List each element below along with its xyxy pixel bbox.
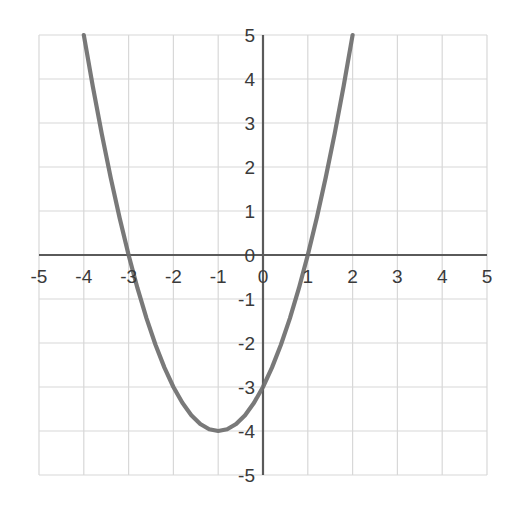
y-tick-label: -3 (238, 378, 255, 397)
y-tick-label: 5 (244, 26, 255, 45)
x-tick-label: 1 (303, 267, 314, 286)
x-tick-label: -5 (31, 267, 48, 286)
x-tick-label: 3 (392, 267, 403, 286)
x-tick-label: -2 (165, 267, 182, 286)
y-tick-label: 3 (244, 114, 255, 133)
x-tick-label: 5 (482, 267, 493, 286)
x-tick-label: 0 (258, 267, 269, 286)
y-tick-label: 1 (244, 202, 255, 221)
y-tick-label: 0 (244, 246, 255, 265)
x-tick-label: -3 (120, 267, 137, 286)
y-tick-label: -2 (238, 334, 255, 353)
x-tick-label: 2 (347, 267, 358, 286)
x-tick-label: 4 (437, 267, 448, 286)
parabola-graph: -5-4-3-2-1012345 543210-1-2-3-4-5 (0, 0, 518, 507)
y-tick-label: -5 (238, 466, 255, 485)
y-tick-label: -4 (238, 422, 255, 441)
x-tick-label: -4 (75, 267, 92, 286)
y-tick-label: -1 (238, 290, 255, 309)
y-tick-label: 2 (244, 158, 255, 177)
x-tick-label: -1 (210, 267, 227, 286)
plot-area (0, 0, 518, 507)
y-tick-label: 4 (244, 70, 255, 89)
